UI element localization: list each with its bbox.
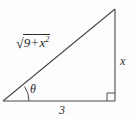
triangle-drawing [0, 0, 134, 119]
radicand: 9+x2 [23, 34, 51, 49]
right-triangle-figure: √9+x2 x 3 θ [0, 0, 134, 119]
angle-theta-label: θ [30, 83, 36, 95]
angle-arc-icon [25, 87, 29, 101]
radicand-exponent: 2 [45, 35, 49, 44]
radical-expression: √9+x2 [16, 34, 50, 51]
radicand-operator: + [30, 35, 39, 50]
hypotenuse-label: √9+x2 [16, 34, 50, 51]
adjacent-side-label: 3 [59, 104, 65, 116]
right-angle-marker-icon [107, 93, 115, 101]
opposite-side-label: x [120, 55, 125, 67]
hypotenuse-line [3, 9, 115, 101]
